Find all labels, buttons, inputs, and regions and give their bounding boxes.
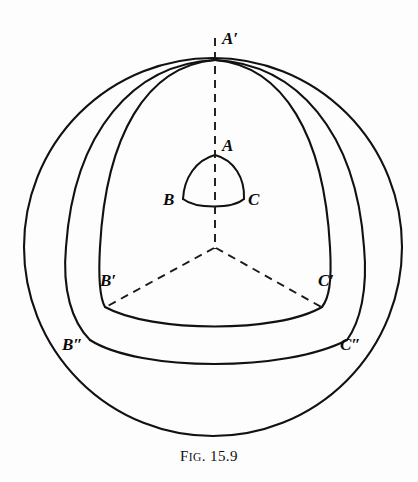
label-b-double-prime: B″ xyxy=(62,336,83,353)
spherical-sector-diagram xyxy=(0,0,418,482)
label-a-prime: A′ xyxy=(222,30,238,47)
base-rim-arc-outer xyxy=(90,340,347,364)
triangle-abc-side-ac xyxy=(215,155,244,199)
label-b: B xyxy=(163,191,174,208)
label-c-prime: C′ xyxy=(318,272,334,289)
sphere-outline-circle xyxy=(24,58,402,436)
figure-caption: FIG. 15.9 xyxy=(0,448,418,465)
caption-smallcaps: IG xyxy=(189,451,202,463)
meridian-left-middle-shell xyxy=(65,60,215,340)
base-rim-arc-inner xyxy=(105,307,322,327)
label-c-double-prime: C″ xyxy=(340,336,361,353)
label-b-prime: B′ xyxy=(100,272,116,289)
figure-container: A′ A B C B′ C′ B″ C″ FIG. 15.9 xyxy=(0,0,418,482)
meridian-left-inner-shell xyxy=(99,60,215,307)
radius-dashed-line-to-c-prime xyxy=(216,248,323,308)
meridian-right-inner-shell xyxy=(215,60,331,307)
label-c: C xyxy=(248,191,259,208)
triangle-abc-side-bc xyxy=(183,199,244,207)
label-a: A xyxy=(222,137,233,154)
radius-dashed-line-to-b-prime xyxy=(104,248,214,308)
caption-prefix: F xyxy=(180,448,189,464)
meridian-right-middle-shell xyxy=(215,60,365,340)
caption-rest: . 15.9 xyxy=(202,448,238,464)
triangle-abc-side-ab xyxy=(183,155,215,199)
